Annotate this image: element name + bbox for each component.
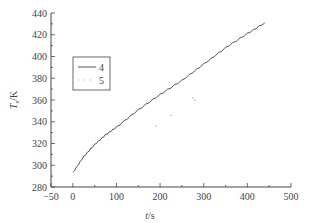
- y-tick-label: 400: [32, 51, 47, 62]
- series-5-point: [192, 97, 193, 98]
- plot-area: [73, 23, 265, 173]
- y-tick-label: 420: [32, 29, 47, 40]
- legend-label-series-5: 5: [99, 75, 104, 86]
- y-tick-label: 360: [32, 95, 47, 106]
- series-4-line: [73, 23, 265, 173]
- series-5-point: [170, 115, 171, 116]
- y-axis-title: Ts/K: [8, 90, 21, 109]
- x-axis-title: t/s: [145, 210, 155, 221]
- y-tick-label: 280: [32, 182, 47, 193]
- legend-label-series-4: 4: [99, 62, 104, 73]
- series-5-point: [194, 99, 195, 100]
- y-tick-label: 300: [32, 160, 47, 171]
- x-tick-label: −50: [43, 191, 59, 202]
- line-chart: −500100200300400500280300320340360380400…: [0, 0, 310, 223]
- series-5-point: [155, 125, 156, 126]
- svg-text:Ts/K: Ts/K: [8, 90, 21, 109]
- y-tick-label: 320: [32, 138, 47, 149]
- y-tick-label: 340: [32, 116, 47, 127]
- x-tick-label: 100: [109, 191, 124, 202]
- x-tick-label: 200: [153, 191, 168, 202]
- legend-box: [73, 57, 110, 90]
- x-tick-label: 0: [70, 191, 75, 202]
- x-tick-label: 400: [240, 191, 255, 202]
- axes: −500100200300400500280300320340360380400…: [32, 8, 299, 203]
- x-tick-label: 500: [284, 191, 299, 202]
- legend: 4 5: [73, 57, 110, 90]
- y-tick-label: 380: [32, 73, 47, 84]
- x-tick-label: 300: [196, 191, 211, 202]
- y-tick-label: 440: [32, 8, 47, 19]
